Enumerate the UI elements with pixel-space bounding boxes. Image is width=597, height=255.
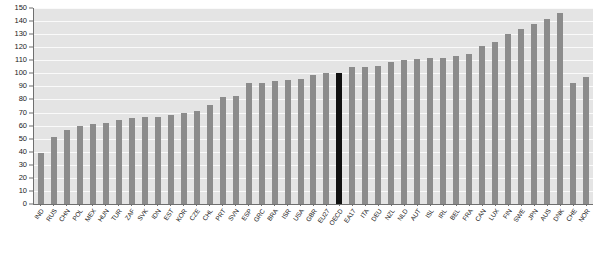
bar-nzl[interactable] xyxy=(388,62,394,204)
bar-est[interactable] xyxy=(168,115,174,204)
bar-eu27[interactable] xyxy=(323,73,329,204)
bar-isr[interactable] xyxy=(285,80,291,204)
bar-ind[interactable] xyxy=(38,153,44,204)
bar-deu[interactable] xyxy=(375,66,381,205)
bar-oecd[interactable] xyxy=(336,73,342,204)
bar-slot xyxy=(87,8,100,204)
bar-hun[interactable] xyxy=(103,123,109,204)
bar-chn[interactable] xyxy=(64,130,70,205)
x-axis-labels: INDRUSCHNPOLMEXHUNTURZAFSVKIDNESTKORCZEC… xyxy=(33,206,593,255)
y-axis-tick-label: 90 xyxy=(19,83,27,91)
x-axis-label-slot: TUR xyxy=(112,206,125,255)
y-axis-tick-label: 70 xyxy=(19,109,27,117)
bar-fra[interactable] xyxy=(466,54,472,204)
bar-aut[interactable] xyxy=(414,59,420,204)
bar-slot xyxy=(152,8,165,204)
bar-mex[interactable] xyxy=(90,124,96,204)
bar-grc[interactable] xyxy=(259,83,265,205)
bar-idn[interactable] xyxy=(155,117,161,205)
bar-irl[interactable] xyxy=(440,58,446,204)
x-axis-label-slot: OECD xyxy=(333,206,346,255)
bar-slot xyxy=(35,8,48,204)
bar-lux[interactable] xyxy=(492,42,498,204)
bar-fin[interactable] xyxy=(505,34,511,204)
x-axis-tick-mark xyxy=(209,204,210,206)
x-axis-tick-mark xyxy=(482,204,483,206)
bar-slot xyxy=(294,8,307,204)
bar-aus[interactable] xyxy=(544,19,550,205)
x-axis-tick-label-tur: TUR xyxy=(111,208,124,222)
x-axis-label-slot: ITA xyxy=(359,206,372,255)
bar-zaf[interactable] xyxy=(129,118,135,204)
x-axis-tick-mark xyxy=(144,204,145,206)
bar-cze[interactable] xyxy=(194,111,200,204)
x-axis-tick-label-lux: LUX xyxy=(488,208,500,222)
bar-bra[interactable] xyxy=(272,81,278,204)
x-axis-label-slot: CHN xyxy=(60,206,73,255)
x-axis-tick-label-isr: ISR xyxy=(281,208,292,220)
bar-rus[interactable] xyxy=(51,137,57,204)
x-axis-tick-mark xyxy=(443,204,444,206)
bar-pol[interactable] xyxy=(77,126,83,204)
bar-chl[interactable] xyxy=(207,105,213,204)
bar-jpn[interactable] xyxy=(531,24,537,204)
bar-slot xyxy=(346,8,359,204)
x-axis-tick-label-swe: SWE xyxy=(513,208,527,224)
y-axis-tick-label: 60 xyxy=(19,122,27,130)
x-axis-tick-mark xyxy=(118,204,119,206)
x-axis-tick-label-pol: POL xyxy=(72,208,85,222)
bar-svk[interactable] xyxy=(142,117,148,205)
bar-slot xyxy=(488,8,501,204)
x-axis-label-slot: AUT xyxy=(411,206,424,255)
x-axis-label-slot: AUS xyxy=(540,206,553,255)
x-axis-tick-label-svk: SVK xyxy=(137,208,150,222)
x-axis-tick-mark xyxy=(313,204,314,206)
x-axis-tick-mark xyxy=(105,204,106,206)
bar-slot xyxy=(281,8,294,204)
bar-gbr[interactable] xyxy=(310,75,316,204)
bar-slot xyxy=(139,8,152,204)
y-axis-tick-label: 80 xyxy=(19,96,27,104)
bar-slot xyxy=(216,8,229,204)
bar-che[interactable] xyxy=(570,83,576,205)
bar-slot xyxy=(333,8,346,204)
bar-usa[interactable] xyxy=(298,79,304,204)
bar-bel[interactable] xyxy=(453,56,459,204)
bar-chart: 0102030405060708090100110120130140150 IN… xyxy=(0,0,597,255)
bar-kor[interactable] xyxy=(181,113,187,205)
x-axis-tick-mark xyxy=(40,204,41,206)
bar-nor[interactable] xyxy=(583,77,589,204)
bar-tur[interactable] xyxy=(116,120,122,204)
bar-svn[interactable] xyxy=(233,96,239,205)
bar-isl[interactable] xyxy=(427,58,433,204)
bar-nld[interactable] xyxy=(401,60,407,204)
x-axis-label-slot: CZE xyxy=(190,206,203,255)
x-axis-tick-label-esp: ESP xyxy=(241,208,254,222)
bar-slot xyxy=(113,8,126,204)
x-axis-tick-mark xyxy=(573,204,574,206)
x-axis-tick-mark xyxy=(560,204,561,206)
x-axis-tick-label-hun: HUN xyxy=(97,208,110,223)
y-axis-tick-label: 50 xyxy=(19,135,27,143)
x-axis-label-slot: SVK xyxy=(138,206,151,255)
x-axis-tick-mark xyxy=(495,204,496,206)
bar-slot xyxy=(566,8,579,204)
bar-slot xyxy=(100,8,113,204)
y-axis: 0102030405060708090100110120130140150 xyxy=(0,8,33,204)
bar-slot xyxy=(462,8,475,204)
bar-can[interactable] xyxy=(479,46,485,204)
x-axis-tick-mark xyxy=(261,204,262,206)
bar-esp[interactable] xyxy=(246,83,252,205)
bar-dnk[interactable] xyxy=(557,13,563,204)
bar-swe[interactable] xyxy=(518,29,524,204)
x-axis-tick-mark xyxy=(300,204,301,206)
bar-ita[interactable] xyxy=(362,67,368,204)
bar-ea17[interactable] xyxy=(349,67,355,204)
x-axis-tick-label-can: CAN xyxy=(474,208,487,223)
x-axis-label-slot: GBR xyxy=(307,206,320,255)
y-axis-tick-label: 150 xyxy=(14,4,27,12)
bar-slot xyxy=(514,8,527,204)
x-axis-tick-mark xyxy=(469,204,470,206)
x-axis-tick-label-bel: BEL xyxy=(449,208,461,222)
bar-prt[interactable] xyxy=(220,97,226,204)
